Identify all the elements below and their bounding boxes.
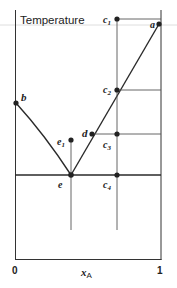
label-b: b [21,91,27,103]
liquidus-a-line [71,24,159,175]
label-a: a [150,19,155,30]
point-e [68,172,74,178]
point-d [89,131,94,136]
point-c4 [114,172,119,177]
label-e: e [58,179,63,190]
label-c2: c2 [103,84,111,97]
point-a [156,21,161,26]
phase-diagram: Temperature c1 a c2 b d c3 e1 e c4 0 1 x… [0,0,177,288]
label-d: d [82,127,88,139]
label-c4: c4 [103,179,111,192]
point-b [13,100,18,105]
liquidus-b-curve [16,103,71,175]
point-e1 [68,137,73,142]
tick-0: 0 [12,265,18,276]
point-c2 [114,87,119,92]
tick-1: 1 [157,265,163,276]
point-c1 [114,16,119,21]
label-e1: e1 [57,136,65,149]
point-c3 [114,131,119,136]
title-temperature: Temperature [20,14,85,26]
label-c3: c3 [103,139,111,152]
x-axis-label: xA [80,266,93,280]
